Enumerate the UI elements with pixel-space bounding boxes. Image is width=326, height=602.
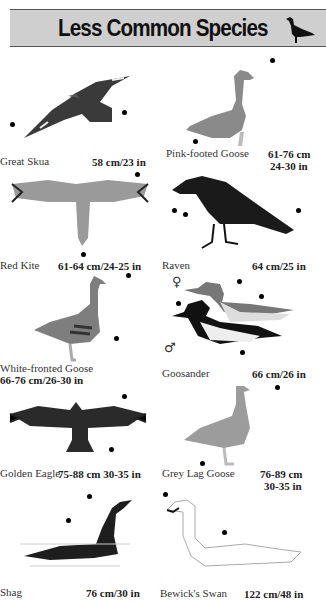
species-size-line1: 61-76 cm <box>268 148 310 160</box>
species-size-line2: 24-30 in <box>270 160 308 172</box>
red-kite-illustration <box>8 178 153 248</box>
shag-illustration <box>20 496 140 572</box>
field-mark-pin <box>122 394 127 399</box>
species-size: 58 cm/23 in <box>92 156 146 168</box>
species-name: Red Kite <box>0 259 39 271</box>
field-mark-pin <box>200 461 205 466</box>
golden-eagle-illustration <box>8 400 148 456</box>
species-size: 66 cm/26 in <box>252 368 306 380</box>
field-mark-pin <box>66 518 71 523</box>
field-mark-pin <box>270 58 275 63</box>
great-skua-illustration <box>12 62 132 142</box>
field-mark-pin <box>87 494 92 499</box>
species-size-line1: 76-89 cm <box>260 468 302 480</box>
grey-lag-goose-illustration <box>180 382 270 470</box>
field-mark-pin <box>109 447 114 452</box>
goosander-illustration <box>170 282 300 357</box>
species-name: White-fronted Goose <box>0 362 93 374</box>
species-size: 75-88 cm 30-35 in <box>58 468 141 480</box>
raven-illustration <box>168 172 303 252</box>
species-name: Pink-footed Goose <box>166 147 249 159</box>
field-mark-pin <box>222 530 227 535</box>
field-mark-pin <box>193 139 198 144</box>
field-mark-pin <box>122 110 127 115</box>
species-size: 64 cm/25 in <box>252 260 306 272</box>
species-name: Raven <box>162 259 190 271</box>
field-mark-pin <box>172 208 177 213</box>
page-title: Less Common Species <box>58 14 268 42</box>
species-size: 76 cm/30 in <box>86 587 140 599</box>
species-size: 66-76 cm/26-30 in <box>0 374 83 386</box>
field-mark-pin <box>296 208 301 213</box>
field-mark-pin <box>81 252 86 257</box>
species-name: Golden Eagle <box>0 467 60 479</box>
species-name: Goosander <box>162 367 210 379</box>
species-name: Shag <box>0 586 22 598</box>
field-mark-pin <box>163 492 168 497</box>
pink-footed-goose-illustration <box>182 60 272 150</box>
section-header: Less Common Species <box>10 9 326 47</box>
species-name: Great Skua <box>0 155 49 167</box>
species-size: 122 cm/48 in <box>244 588 303 600</box>
field-mark-pin <box>176 301 181 306</box>
white-fronted-goose-illustration <box>30 274 120 362</box>
field-mark-pin <box>135 172 140 177</box>
field-mark-pin <box>275 385 280 390</box>
field-mark-pin <box>183 212 188 217</box>
field-mark-pin <box>114 336 119 341</box>
goose-silhouette-icon <box>282 13 318 45</box>
field-mark-pin <box>259 294 264 299</box>
species-size: 61-64 cm/24-25 in <box>58 260 141 272</box>
species-name: Grey Lag Goose <box>162 467 235 479</box>
field-mark-pin <box>10 122 15 127</box>
bewicks-swan-illustration <box>165 490 305 570</box>
field-mark-pin <box>240 350 245 355</box>
species-name: Bewick's Swan <box>160 587 227 599</box>
field-mark-pin <box>126 273 131 278</box>
field-mark-pin <box>237 279 242 284</box>
